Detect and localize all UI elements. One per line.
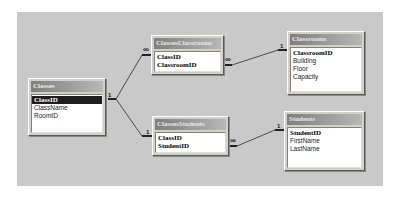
field-list[interactable]: ClassID ClassName RoomID	[31, 94, 103, 133]
field-row[interactable]: Floor	[291, 65, 361, 73]
cardinality-label: ∞	[143, 47, 149, 53]
table-title[interactable]: ClassesStudents	[155, 119, 226, 130]
join-line-classes-classesclassrooms[interactable]	[116, 55, 142, 99]
table-classrooms[interactable]: Classrooms ClassroomID Building Floor Ca…	[287, 31, 365, 95]
field-row[interactable]: ClassID	[155, 53, 220, 61]
field-row[interactable]: StudentID	[288, 129, 361, 137]
field-row[interactable]: ClassName	[32, 104, 102, 112]
join-line-classes-classesstudents[interactable]	[116, 99, 142, 136]
field-list[interactable]: StudentID FirstName LastName	[287, 127, 362, 168]
field-row[interactable]: FirstName	[288, 137, 361, 145]
field-row[interactable]: ClassID	[156, 134, 225, 142]
table-classesstudents[interactable]: ClassesStudents ClassID StudentID	[152, 116, 229, 156]
cardinality-label: 1	[146, 129, 149, 135]
table-classesclassrooms[interactable]: ClassesClassrooms ClassID ClassroomID	[151, 35, 224, 75]
cardinality-label: 1	[108, 92, 111, 98]
table-students[interactable]: Students StudentID FirstName LastName	[284, 111, 365, 171]
join-line-classesclassrooms-classrooms[interactable]	[232, 50, 278, 65]
cardinality-label: ∞	[225, 57, 231, 63]
field-row[interactable]: ClassroomID	[155, 61, 220, 69]
join-line-classesstudents-students[interactable]	[237, 130, 275, 146]
field-list[interactable]: ClassroomID Building Floor Capacity	[290, 47, 362, 92]
field-list[interactable]: ClassID StudentID	[155, 132, 226, 153]
table-classes[interactable]: Classes ClassID ClassName RoomID	[28, 78, 106, 136]
table-title[interactable]: Classrooms	[290, 34, 362, 45]
field-row[interactable]: ClassroomID	[291, 49, 361, 57]
table-title[interactable]: Classes	[31, 81, 103, 92]
table-title[interactable]: Students	[287, 114, 362, 125]
cardinality-label: ∞	[230, 138, 236, 144]
field-row[interactable]: Capacity	[291, 73, 361, 81]
cardinality-label: 1	[280, 43, 283, 49]
field-row[interactable]: ClassID	[32, 96, 102, 104]
table-title[interactable]: ClassesClassrooms	[154, 38, 221, 49]
field-row[interactable]: Building	[291, 57, 361, 65]
field-row[interactable]: StudentID	[156, 142, 225, 150]
field-list[interactable]: ClassID ClassroomID	[154, 51, 221, 72]
field-row[interactable]: RoomID	[32, 112, 102, 120]
field-row[interactable]: LastName	[288, 145, 361, 153]
cardinality-label: 1	[277, 123, 280, 129]
